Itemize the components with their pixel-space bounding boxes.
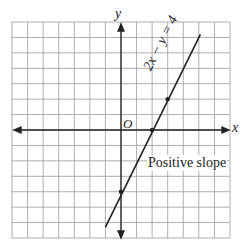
- origin-label: O: [123, 116, 132, 132]
- data-point: [150, 128, 154, 132]
- data-point: [119, 190, 123, 194]
- x-axis-label: x: [232, 120, 238, 136]
- data-point: [166, 97, 170, 101]
- y-axis-label: y: [115, 6, 121, 22]
- slope-annotation: Positive slope: [147, 155, 227, 171]
